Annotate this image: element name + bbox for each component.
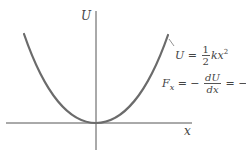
fraction-denominator: 2 xyxy=(202,56,210,67)
potential-lhs: U xyxy=(175,49,184,62)
force-subscript: x xyxy=(170,83,175,92)
potential-term: kx xyxy=(211,49,224,62)
potential-equation: U = 1 2 kx2 xyxy=(175,44,228,67)
force-lhs: F xyxy=(162,77,170,90)
potential-exponent: 2 xyxy=(224,48,228,56)
potential-equals: = xyxy=(188,49,197,62)
derivative-numerator: dU xyxy=(204,72,221,84)
x-axis-label: x xyxy=(184,125,191,137)
leader-line xyxy=(169,39,174,46)
potential-energy-figure: U x U = 1 2 kx2 Fx = − dU dx = −kx xyxy=(0,0,246,156)
force-equals-minus-2: = − xyxy=(225,77,246,90)
half-fraction: 1 2 xyxy=(202,44,210,67)
fraction-numerator: 1 xyxy=(202,44,210,56)
derivative-fraction: dU dx xyxy=(204,72,221,95)
u-axis-label: U xyxy=(81,10,91,22)
derivative-denominator: dx xyxy=(204,84,221,95)
force-equals-minus: = − xyxy=(178,77,200,90)
force-equation: Fx = − dU dx = −kx xyxy=(162,72,246,95)
